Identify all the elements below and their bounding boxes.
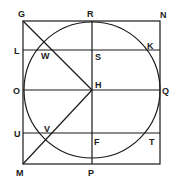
label-p: P	[88, 168, 94, 178]
geometry-diagram: G R N L W S K O H Q U V F T M P	[0, 0, 179, 187]
label-l: L	[14, 46, 20, 56]
label-m: M	[16, 168, 24, 178]
label-r: R	[87, 9, 94, 19]
label-t: T	[149, 137, 155, 147]
diagonal-mh	[23, 90, 92, 164]
label-v: V	[44, 124, 50, 134]
label-w: W	[41, 51, 50, 61]
label-g: G	[18, 9, 25, 19]
label-k: K	[147, 41, 154, 51]
label-u: U	[14, 129, 21, 139]
label-q: Q	[162, 86, 169, 96]
label-f: F	[94, 137, 100, 147]
label-h: H	[95, 80, 102, 90]
label-o: O	[13, 86, 20, 96]
label-s: S	[95, 52, 101, 62]
label-n: N	[160, 10, 167, 20]
